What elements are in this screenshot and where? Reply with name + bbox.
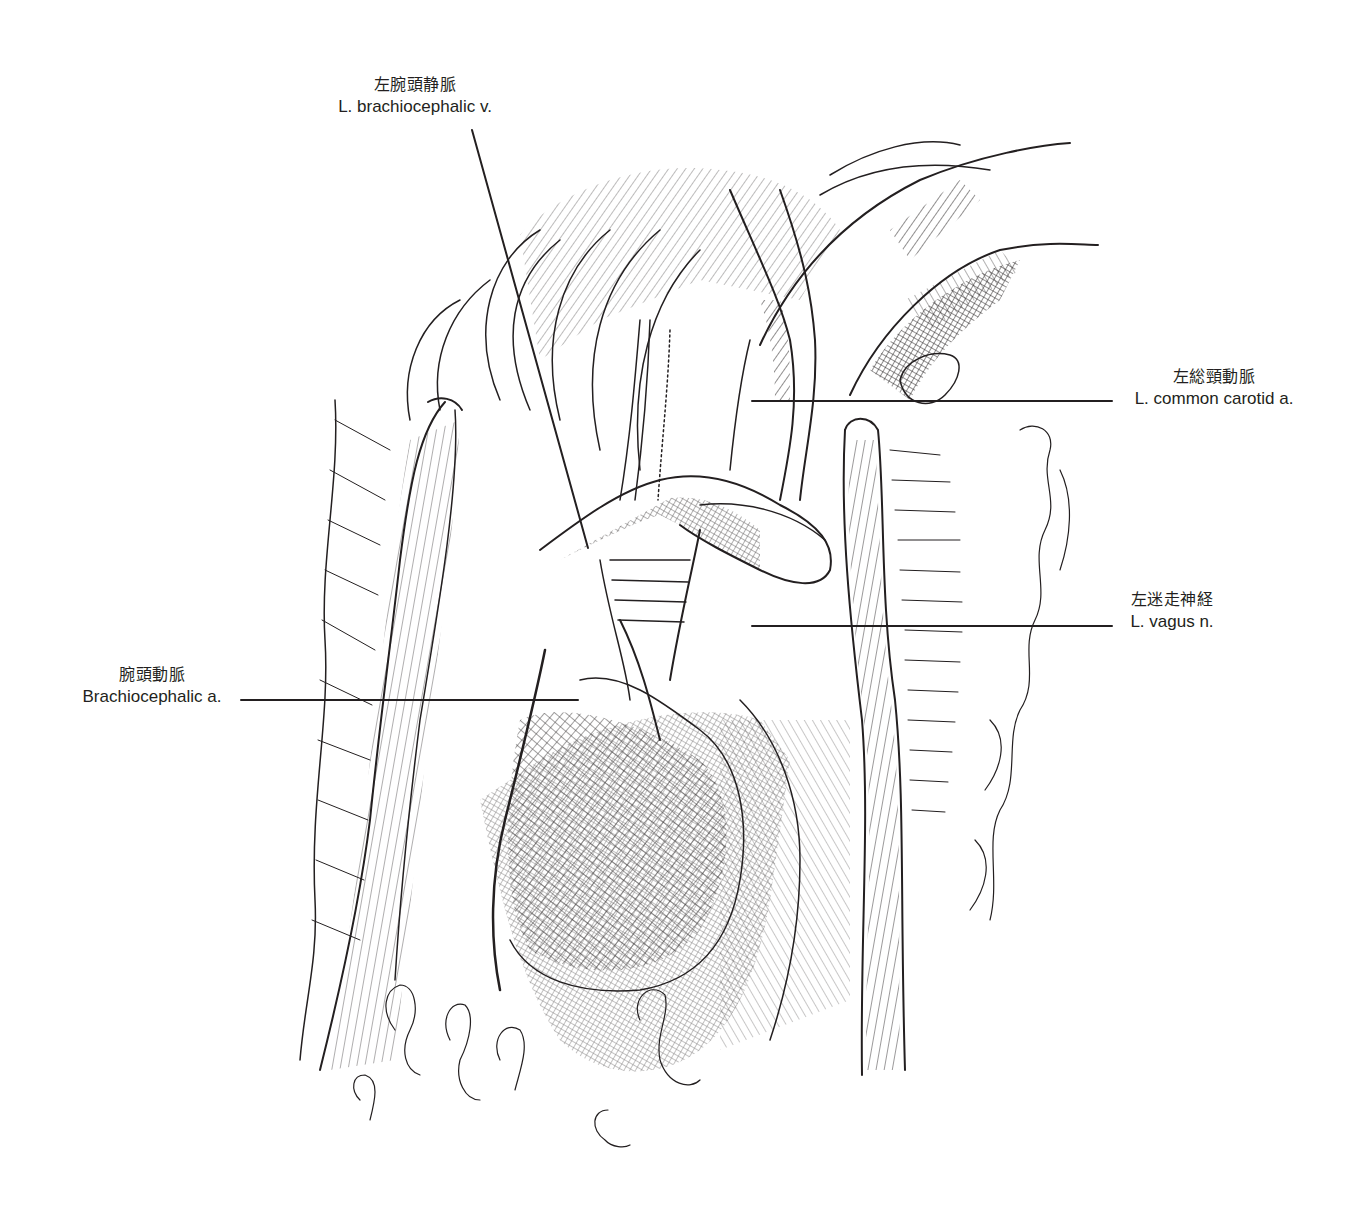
trachea-rings	[610, 560, 690, 622]
label-l-brachiocephalic-v: 左腕頭静脈 L. brachiocephalic v.	[316, 74, 514, 118]
label-ja: 腕頭動脈	[62, 664, 242, 686]
right-outer-tissue	[890, 426, 1069, 920]
thin-vessels	[620, 320, 670, 500]
label-en: L. vagus n.	[1117, 611, 1227, 633]
upper-tissue-hatching	[407, 142, 990, 470]
label-l-common-carotid-a: 左総頸動脈 L. common carotid a.	[1117, 366, 1311, 410]
right-pleural-edge	[844, 419, 905, 1075]
label-brachiocephalic-a: 腕頭動脈 Brachiocephalic a.	[62, 664, 242, 708]
label-en: Brachiocephalic a.	[62, 686, 242, 708]
label-l-vagus-n: 左迷走神経 L. vagus n.	[1117, 589, 1227, 633]
label-en: L. common carotid a.	[1117, 388, 1311, 410]
label-ja: 左総頸動脈	[1117, 366, 1311, 388]
label-ja: 左迷走神経	[1117, 589, 1227, 611]
left-pleural-edge	[320, 398, 462, 1070]
label-ja: 左腕頭静脈	[316, 74, 514, 96]
label-en: L. brachiocephalic v.	[316, 96, 514, 118]
